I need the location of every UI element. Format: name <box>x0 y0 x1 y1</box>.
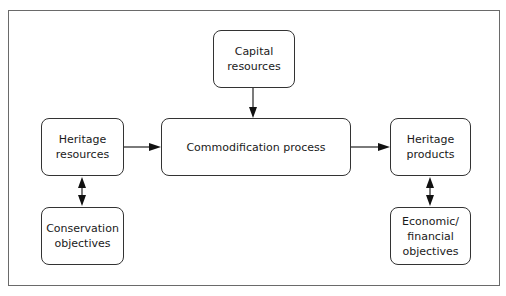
arrow-commodification-to-heritage-products <box>351 143 390 151</box>
edges-layer <box>0 0 506 296</box>
double-arrow-heritage-products-economic <box>426 177 434 206</box>
double-arrow-heritage-resources-conservation <box>78 177 86 206</box>
arrow-capital-to-commodification <box>249 88 257 118</box>
arrow-heritage-resources-to-commodification <box>124 143 161 151</box>
